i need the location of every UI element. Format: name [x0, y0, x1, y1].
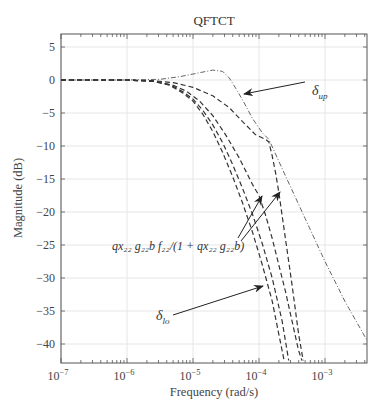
y-tick-label: 5 — [49, 40, 55, 54]
x-tick-label: 10−3 — [311, 367, 332, 383]
axis-ticks — [61, 34, 367, 363]
annotation-arrow — [244, 82, 305, 94]
y-tick-labels: 50−5−10−15−20−25−30−35−40 — [36, 40, 55, 351]
x-tick-labels: 10−710−610−510−410−3 — [47, 367, 332, 383]
annotation-transfer_fn: qx₂₂ g₂₂b f₂₂/(1 + qx₂₂ g₂₂b) — [112, 239, 244, 253]
y-tick-label: −40 — [36, 337, 55, 351]
curve-qx22_g22b_f22_over_1_plus_qx22_g22b_lower — [61, 80, 302, 361]
curve-delta_up — [61, 70, 367, 341]
bode-magnitude-chart: QFTCT 50−5−10−15−20−25−30−35−40 10−710−6… — [0, 0, 385, 417]
annotation-arrow — [238, 196, 262, 238]
curve-delta_lo — [61, 80, 284, 361]
y-tick-label: −5 — [42, 106, 55, 120]
x-tick-label: 10−5 — [179, 367, 200, 383]
curves — [61, 70, 367, 360]
y-tick-label: −30 — [36, 271, 55, 285]
x-axis-label: Frequency (rad/s) — [170, 385, 259, 399]
y-tick-label: −15 — [36, 172, 55, 186]
y-tick-label: −10 — [36, 139, 55, 153]
y-tick-label: −35 — [36, 304, 55, 318]
grid-lines — [61, 34, 367, 363]
y-tick-label: 0 — [49, 73, 55, 87]
annotations: δupqx₂₂ g₂₂b f₂₂/(1 + qx₂₂ g₂₂b)δlo — [112, 82, 328, 326]
annotation-delta_up: δup — [312, 83, 328, 101]
y-tick-label: −20 — [36, 205, 55, 219]
x-tick-label: 10−4 — [245, 367, 267, 383]
plot-frame — [61, 34, 367, 363]
x-tick-label: 10−6 — [113, 367, 134, 383]
chart-title: QFTCT — [193, 13, 234, 28]
y-axis-label: Magnitude (dB) — [11, 158, 25, 238]
x-tick-label: 10−7 — [47, 367, 68, 383]
y-tick-label: −25 — [36, 238, 55, 252]
